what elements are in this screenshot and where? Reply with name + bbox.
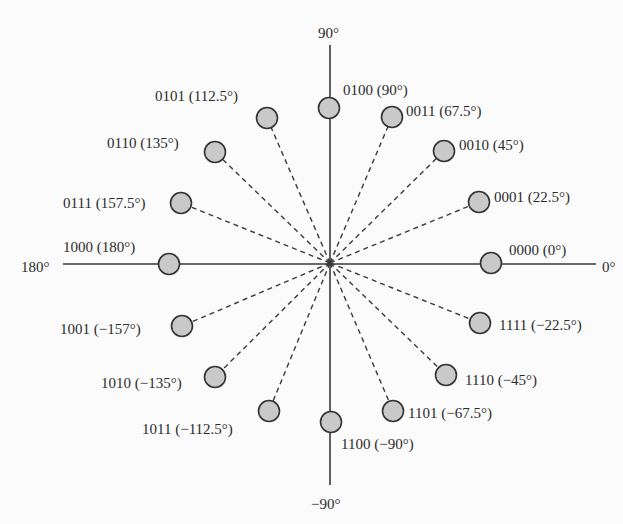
point-label-1111: 1111 (−22.5°) [499,317,582,334]
phase-constellation-diagram: 90° −90° 180° 0° 0000 (0°)0001 (22.5°)00… [0,0,623,524]
dashed-line-1011 [273,263,330,401]
point-label-0000: 0000 (0°) [509,242,566,259]
point-label-0111: 0111 (157.5°) [63,195,145,212]
dashed-line-0011 [330,127,388,263]
point-label-0101: 0101 (112.5°) [155,88,238,105]
constellation-canvas: 90° −90° 180° 0° 0000 (0°)0001 (22.5°)00… [0,0,623,524]
point-label-1100: 1100 (−90°) [341,436,414,453]
axis-label-minus-90: −90° [311,496,340,512]
constellation-point-1001 [172,316,193,337]
point-label-0100: 0100 (90°) [343,82,408,99]
axis-label-90: 90° [318,25,339,41]
constellation-point-0001 [469,192,490,213]
constellation-point-1110 [436,365,457,386]
constellation-point-0111 [171,193,192,214]
point-label-0001: 0001 (22.5°) [494,189,570,206]
point-label-0010: 0010 (45°) [459,137,524,154]
point-label-1011: 1011 (−112.5°) [142,421,233,438]
constellation-point-1111 [470,313,491,334]
constellation-point-1100 [321,412,342,433]
constellation-point-0110 [205,142,226,163]
constellation-point-1000 [159,254,180,275]
constellation-point-0011 [382,107,403,128]
point-label-0011: 0011 (67.5°) [406,103,481,120]
dashed-line-1110 [330,263,438,368]
dashed-line-1010 [223,263,331,370]
axis-label-180: 180° [21,259,50,275]
point-label-1110: 1110 (−45°) [465,372,537,389]
dashed-line-0110 [223,159,330,263]
constellation-point-1101 [383,401,404,422]
point-label-1010: 1010 (−135°) [101,375,182,392]
dashed-line-0010 [330,158,437,263]
point-label-1101: 1101 (−67.5°) [408,405,492,422]
constellation-point-1010 [205,367,226,388]
axis-label-0: 0° [602,259,616,275]
dashed-line-0001 [330,206,469,263]
constellation-point-0010 [434,141,455,162]
constellation-point-0100 [319,98,340,119]
constellation-point-1011 [259,401,280,422]
point-label-1000: 1000 (180°) [63,239,135,256]
constellation-point-0000 [481,253,502,274]
dashed-line-0101 [271,128,330,263]
point-label-0110: 0110 (135°) [107,135,179,152]
point-label-1001: 1001 (−157°) [60,321,141,338]
dashed-line-1111 [330,263,470,319]
constellation-point-0101 [257,108,278,129]
dashed-line-0111 [191,207,330,263]
